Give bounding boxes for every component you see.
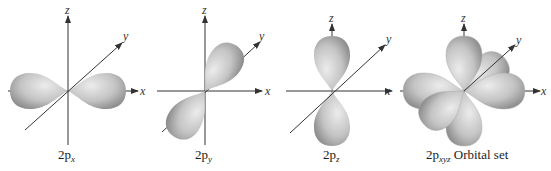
axis-label-z: z xyxy=(461,12,466,24)
axis-label-y: y xyxy=(516,34,521,46)
panel-2py xyxy=(157,16,262,146)
caption-2pz: 2pz xyxy=(323,148,340,164)
axis-label-x: x xyxy=(541,85,546,97)
axis-label-z: z xyxy=(65,4,70,16)
axis-label-x: x xyxy=(265,85,270,97)
axis-label-x: x xyxy=(140,85,145,97)
axis-label-y: y xyxy=(386,33,391,45)
axis-label-y: y xyxy=(123,30,128,42)
caption-2px: 2px xyxy=(58,148,75,164)
axis-label-z: z xyxy=(202,4,207,16)
caption-2pxyz: 2pxyz Orbital set xyxy=(426,148,508,164)
orbital-diagram xyxy=(0,0,551,171)
panel-2pz xyxy=(286,24,392,146)
panel-2px xyxy=(8,16,138,145)
axis-label-z: z xyxy=(329,12,334,24)
axis-label-y: y xyxy=(259,30,264,42)
caption-2py: 2py xyxy=(195,148,212,164)
axis-label-x: x xyxy=(385,85,390,97)
